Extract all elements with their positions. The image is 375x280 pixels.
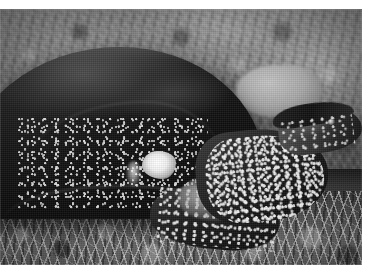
turtle-shell-highlight-secondary xyxy=(126,161,141,187)
turtle-eye xyxy=(328,119,335,125)
photo-page: Turtle resting on grass xyxy=(0,0,375,280)
turtle-photograph: Turtle resting on grass xyxy=(0,9,362,265)
turtle-shell-highlight xyxy=(142,151,176,179)
